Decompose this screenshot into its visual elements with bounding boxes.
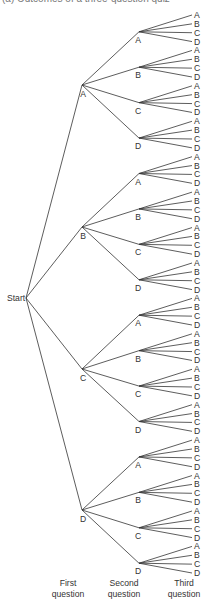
branch-third-ADB <box>139 130 192 138</box>
branch-first-B <box>26 227 82 298</box>
branch-third-CCD <box>139 386 192 396</box>
branch-third-BAA <box>139 157 192 174</box>
node-label-second-CC: C <box>135 389 141 399</box>
branch-second-CB <box>82 351 139 369</box>
branch-third-CCB <box>139 378 192 386</box>
branch-third-AAC <box>139 32 192 33</box>
branch-second-DC <box>82 510 139 528</box>
node-label-first-A: A <box>80 89 86 99</box>
node-label-second-CD: D <box>135 425 141 435</box>
branch-first-D <box>26 298 82 510</box>
branch-second-DA <box>82 457 139 510</box>
node-label-first-B: B <box>80 231 86 241</box>
branch-third-DBC <box>139 492 192 493</box>
branch-third-BDC <box>139 280 192 281</box>
branch-third-BCB <box>139 236 192 244</box>
branch-third-DCD <box>139 528 192 538</box>
branch-second-BC <box>82 227 139 244</box>
branch-third-CBD <box>139 351 192 361</box>
branch-second-AA <box>82 32 139 85</box>
branch-third-CBB <box>139 343 192 351</box>
branch-third-CAA <box>139 298 192 315</box>
branch-third-DDC <box>139 563 192 564</box>
node-label-second-BD: D <box>135 283 141 293</box>
branch-third-ADD <box>139 138 192 148</box>
branch-third-DCA <box>139 511 192 528</box>
branch-second-BA <box>82 174 139 228</box>
node-label-second-CA: A <box>135 318 141 328</box>
branch-third-DAA <box>139 440 192 457</box>
branch-third-BAD <box>139 174 192 184</box>
axis-label-line: question <box>159 589 209 600</box>
branch-second-AC <box>82 85 139 103</box>
branch-third-AAA <box>139 15 192 32</box>
branch-third-DBA <box>139 476 192 493</box>
branch-third-BBB <box>139 201 192 209</box>
branch-third-DAC <box>139 457 192 458</box>
branch-third-CCA <box>139 369 192 386</box>
node-label-second-DD: D <box>135 566 141 576</box>
branch-third-BDD <box>139 280 192 290</box>
branch-third-CDD <box>139 422 192 432</box>
branch-third-CAD <box>139 315 192 325</box>
branch-third-BAC <box>139 174 192 175</box>
node-label-second-DA: A <box>135 460 141 470</box>
branch-second-CC <box>82 369 139 386</box>
branch-third-BCA <box>139 228 192 245</box>
branch-third-DAD <box>139 457 192 467</box>
branch-second-DD <box>82 510 139 563</box>
branch-third-DDB <box>139 555 192 563</box>
branch-third-CAB <box>139 307 192 315</box>
node-label-second-AB: B <box>135 70 141 80</box>
branch-third-DDD <box>139 563 192 573</box>
node-label-second-DC: C <box>135 531 141 541</box>
node-label-second-AD: D <box>135 141 141 151</box>
branch-third-ABD <box>139 67 192 77</box>
branch-third-ABA <box>139 50 192 67</box>
node-label-first-C: C <box>80 373 86 383</box>
branch-third-CDA <box>139 405 192 422</box>
branch-third-ACD <box>139 103 192 113</box>
branch-second-AB <box>82 67 139 85</box>
node-label-first-D: D <box>80 514 86 524</box>
node-label-second-CB: B <box>135 354 141 364</box>
branch-third-DBB <box>139 484 192 492</box>
node-label-second-BA: A <box>135 177 141 187</box>
branch-third-ACB <box>139 95 192 103</box>
branch-second-CD <box>82 369 139 422</box>
branch-third-BDA <box>139 263 192 280</box>
node-label-second-AA: A <box>135 35 141 45</box>
axis-label-line: question <box>99 589 149 600</box>
branch-third-CDC <box>139 422 192 423</box>
branch-third-ACC <box>139 103 192 104</box>
branch-third-DAB <box>139 449 192 457</box>
axis-label-line: First <box>43 578 93 589</box>
branch-third-DDA <box>139 546 192 563</box>
branch-third-ADC <box>139 138 192 139</box>
axis-label-first-question: First question <box>43 578 93 600</box>
branch-third-AAB <box>139 24 192 32</box>
branch-second-BB <box>82 209 139 227</box>
branch-third-BDB <box>139 272 192 280</box>
branch-second-CA <box>82 315 139 369</box>
branch-third-ADA <box>139 121 192 138</box>
axis-label-line: question <box>43 589 93 600</box>
branch-third-BAB <box>139 166 192 174</box>
branch-second-AD <box>82 85 139 138</box>
branch-third-BCC <box>139 244 192 245</box>
branch-first-C <box>26 298 82 369</box>
node-label-second-BC: C <box>135 247 141 257</box>
branch-third-ABC <box>139 67 192 68</box>
branch-third-AAD <box>139 32 192 42</box>
node-label-second-AC: C <box>135 106 141 116</box>
branch-third-DBD <box>139 492 192 502</box>
branch-third-BBA <box>139 192 192 209</box>
node-label-second-BB: B <box>135 212 141 222</box>
branch-third-BBC <box>139 209 192 210</box>
branch-third-CBA <box>139 334 192 351</box>
tree-diagram: StartAAABCDBABCDCABCDDABCDBAABCDBABCDCAB… <box>0 0 214 612</box>
branch-third-ACA <box>139 86 192 103</box>
branch-third-BBD <box>139 209 192 219</box>
node-label-second-DB: B <box>135 495 141 505</box>
leaf-label-DDD: D <box>194 568 200 578</box>
